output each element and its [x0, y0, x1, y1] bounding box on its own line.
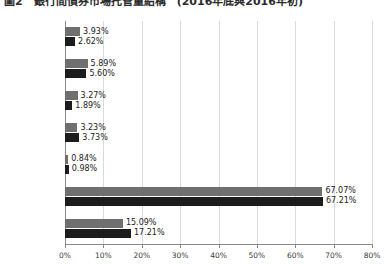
x-axis-tick-label: 50%	[249, 251, 266, 260]
bar-series-2-0[interactable]	[65, 37, 75, 46]
bar-value-label: 67.21%	[326, 196, 357, 205]
bar-value-label: 5.89%	[91, 59, 116, 68]
bar-value-label: 17.21%	[134, 228, 165, 237]
x-axis-tick-label: 80%	[364, 251, 381, 260]
bar-value-label: 67.07%	[325, 186, 356, 195]
bar-group: 商業銀行67.07%67.21%	[65, 187, 372, 206]
bar-value-label: 5.60%	[89, 69, 114, 78]
x-axis-tick-label: 0%	[59, 251, 71, 260]
bar-series-2-1[interactable]	[65, 69, 86, 78]
x-axis-tick	[372, 244, 373, 248]
x-axis-tick-label: 20%	[133, 251, 150, 260]
page-title: 圖2 銀行間債券市場托管量結構 (2016年底與2016年初)	[4, 0, 303, 7]
gridline	[372, 21, 373, 244]
bar-series-1-4[interactable]	[65, 155, 68, 164]
bar-value-label: 3.93%	[83, 27, 108, 36]
x-axis-tick-label: 30%	[172, 251, 189, 260]
bar-series-2-5[interactable]	[65, 197, 323, 206]
x-axis-tick	[103, 244, 104, 248]
bar-series-1-6[interactable]	[65, 219, 123, 228]
bar-series-2-4[interactable]	[65, 165, 69, 174]
bar-value-label: 3.27%	[81, 91, 106, 100]
bar-series-1-0[interactable]	[65, 27, 80, 36]
x-axis-tick	[180, 244, 181, 248]
x-axis-tick-label: 10%	[95, 251, 112, 260]
bar-value-label: 0.84%	[71, 154, 96, 163]
chart-title-bar: 圖2 銀行間債券市場托管量結構 (2016年底與2016年初)	[0, 0, 388, 7]
bar-series-1-2[interactable]	[65, 91, 78, 100]
bar-value-label: 2.62%	[78, 37, 103, 46]
bar-group: 交易所投資者5.89%5.60%	[65, 59, 372, 78]
bar-group: 保險機構3.23%3.73%	[65, 123, 372, 142]
x-axis-tick	[257, 244, 258, 248]
bar-series-1-3[interactable]	[65, 123, 77, 132]
bar-series-1-1[interactable]	[65, 59, 88, 68]
x-axis-tick-label: 60%	[287, 251, 304, 260]
x-axis-tick-label: 40%	[210, 251, 227, 260]
bar-value-label: 3.23%	[80, 123, 105, 132]
bar-value-label: 15.09%	[126, 218, 157, 227]
bar-group: 特殊結算成員15.09%17.21%	[65, 219, 372, 238]
x-axis-tick	[65, 244, 66, 248]
bar-series-2-6[interactable]	[65, 229, 131, 238]
bar-value-label: 3.73%	[82, 133, 107, 142]
bar-value-label: 1.89%	[75, 101, 100, 110]
bar-group: 基金3.27%1.89%	[65, 91, 372, 110]
bar-group: 信用社0.84%0.98%	[65, 155, 372, 174]
bar-group: 境外機構3.93%2.62%	[65, 27, 372, 46]
bar-value-label: 0.98%	[72, 164, 97, 173]
bar-series-1-5[interactable]	[65, 187, 322, 196]
x-axis-tick-label: 70%	[325, 251, 342, 260]
x-axis-tick	[142, 244, 143, 248]
bar-chart: 0%10%20%30%40%50%60%70%80% 境外機構3.93%2.62…	[0, 7, 388, 264]
x-axis-tick	[295, 244, 296, 248]
x-axis-tick	[334, 244, 335, 248]
bar-series-2-2[interactable]	[65, 101, 72, 110]
bar-series-2-3[interactable]	[65, 133, 79, 142]
x-axis-tick	[219, 244, 220, 248]
